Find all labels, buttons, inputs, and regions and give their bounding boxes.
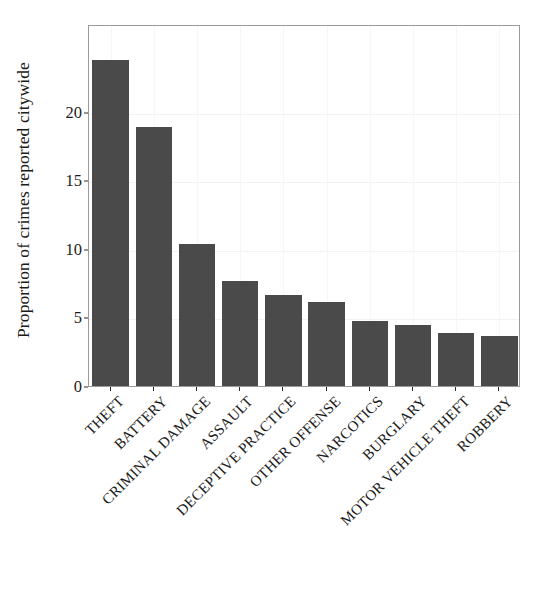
y-axis-title: Proportion of crimes reported citywide: [13, 62, 34, 338]
bar: [395, 325, 431, 387]
bar-chart-figure: Proportion of crimes reported citywide 0…: [0, 0, 543, 606]
y-axis-tick-label: 10: [48, 242, 82, 259]
x-axis-tick-labels: THEFTBATTERYCRIMINAL DAMAGEASSAULTDECEPT…: [0, 387, 543, 606]
y-axis-tick-labels: 05101520: [46, 0, 82, 400]
bar: [179, 244, 215, 387]
y-axis-tick-label: 20: [48, 105, 82, 122]
gridline-vertical: [499, 26, 500, 386]
gridline-vertical: [456, 26, 457, 386]
bar: [481, 336, 517, 387]
plot-area: [88, 25, 520, 387]
bar: [352, 321, 388, 387]
bar: [308, 302, 344, 387]
bar: [92, 60, 128, 387]
y-axis-tick-label: 15: [48, 173, 82, 190]
bar: [265, 295, 301, 387]
bar: [222, 281, 258, 387]
bar: [136, 127, 172, 387]
bar: [438, 333, 474, 387]
y-axis-title-container: Proportion of crimes reported citywide: [0, 0, 46, 400]
y-axis-tick-label: 5: [48, 310, 82, 327]
